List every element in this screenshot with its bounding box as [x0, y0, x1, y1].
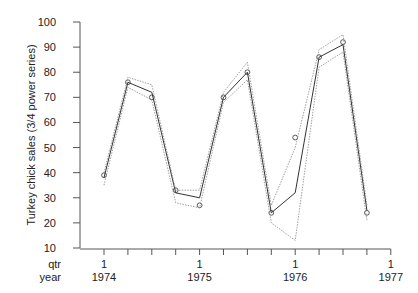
x-tick-qtr-label: 1: [197, 258, 203, 270]
y-tick-label: 40: [44, 167, 56, 179]
fitted-line: [104, 45, 367, 213]
x-tick-qtr-label: 1: [292, 258, 298, 270]
x-tick-year-label: 1976: [283, 271, 307, 283]
x-tick-year-label: 1977: [379, 271, 403, 283]
x-tick-year-label: 1974: [92, 271, 116, 283]
y-tick-label: 60: [44, 116, 56, 128]
x-tick-year-label: 1975: [187, 271, 211, 283]
chart: 102030405060708090100 119741197511976119…: [0, 0, 418, 293]
y-axis: 102030405060708090100: [38, 16, 80, 254]
plot-area: [102, 35, 370, 241]
y-tick-label: 80: [44, 66, 56, 78]
y-tick-label: 70: [44, 91, 56, 103]
y-axis-label: Turkey chick sales (3/4 power series): [25, 44, 37, 225]
observed-point-marker: [197, 203, 202, 208]
y-tick-label: 20: [44, 217, 56, 229]
x-label-year: year: [40, 271, 62, 283]
y-tick-label: 10: [44, 242, 56, 254]
x-tick-qtr-label: 1: [101, 258, 107, 270]
y-tick-label: 30: [44, 192, 56, 204]
interval-band-line: [104, 52, 367, 240]
y-tick-label: 90: [44, 41, 56, 53]
y-tick-label: 50: [44, 142, 56, 154]
x-axis: 11974119751197611977: [80, 249, 403, 283]
x-tick-qtr-label: 1: [388, 258, 394, 270]
interval-band-line: [104, 35, 367, 206]
x-label-qtr: qtr: [48, 258, 61, 270]
y-tick-label: 100: [38, 16, 56, 28]
